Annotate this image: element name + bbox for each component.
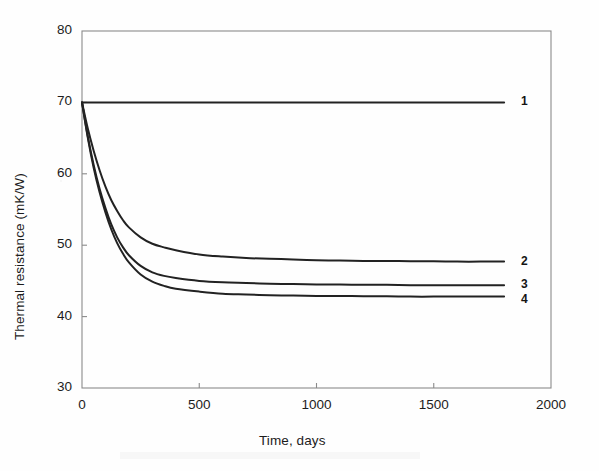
chart-figure: Thermal resistance (mK/W) Time, days 304…: [0, 0, 599, 471]
series-line-2: [82, 102, 504, 261]
y-tick-label: 40: [46, 308, 72, 323]
x-tick-label: 0: [52, 397, 112, 412]
x-tick-label: 2000: [521, 397, 581, 412]
y-tick-label: 80: [46, 22, 72, 37]
series-label-4: 4: [521, 292, 528, 306]
x-tick-label: 1000: [287, 397, 347, 412]
series-line-4: [82, 102, 504, 296]
y-tick-label: 30: [46, 379, 72, 394]
series-label-1: 1: [521, 94, 528, 108]
series-line-3: [82, 102, 504, 285]
x-tick-label: 1500: [404, 397, 464, 412]
y-tick-label: 50: [46, 236, 72, 251]
series-label-3: 3: [521, 277, 528, 291]
x-axis-title: Time, days: [259, 433, 326, 448]
plot-frame: [82, 31, 551, 388]
y-tick-label: 70: [46, 93, 72, 108]
y-axis-title: Thermal resistance (mK/W): [12, 173, 27, 340]
x-tick-label: 500: [169, 397, 229, 412]
series-label-2: 2: [521, 254, 528, 268]
y-tick-label: 60: [46, 165, 72, 180]
